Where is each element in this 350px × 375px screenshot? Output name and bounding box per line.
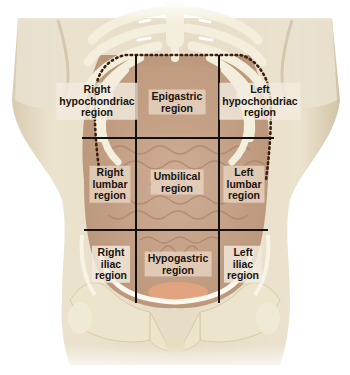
label-line: Left (226, 167, 261, 179)
label-line: region (226, 190, 261, 202)
region-label-right-iliac: Right iliac region (92, 246, 130, 283)
label-line: Epigastric (152, 91, 203, 103)
region-label-umbilical: Umbilical region (151, 170, 204, 195)
region-label-left-hypochondriac: Left hypochondriac region (219, 83, 300, 120)
region-label-left-iliac: Left iliac region (224, 246, 262, 283)
label-line: Right (59, 84, 134, 96)
label-line: Right (95, 247, 127, 259)
region-label-right-lumbar: Right lumbar region (89, 166, 130, 203)
label-line: Umbilical (154, 171, 201, 183)
label-line: Hypogastric (148, 253, 209, 265)
region-label-left-lumbar: Left lumbar region (223, 166, 264, 203)
label-line: region (227, 270, 259, 282)
label-line: Left (227, 247, 259, 259)
region-label-hypogastric: Hypogastric region (145, 252, 212, 277)
label-line: region (152, 102, 203, 114)
abdominopelvic-regions-diagram: Right hypochondriac region Epigastric re… (0, 0, 350, 375)
label-line: region (154, 182, 201, 194)
label-line: region (92, 190, 127, 202)
label-line: region (222, 107, 297, 119)
label-line: Right (92, 167, 127, 179)
label-line: region (95, 270, 127, 282)
label-line: Left (222, 84, 297, 96)
label-line: region (59, 107, 134, 119)
label-line: region (148, 264, 209, 276)
region-label-right-hypochondriac: Right hypochondriac region (56, 83, 137, 120)
region-label-epigastric: Epigastric region (149, 90, 206, 115)
